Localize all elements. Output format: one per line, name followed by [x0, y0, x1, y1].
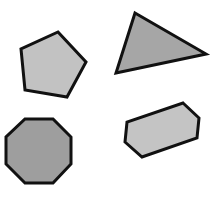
shapes-canvas — [0, 0, 218, 207]
pentagon-shape — [21, 32, 86, 97]
octagon-shape — [6, 119, 71, 183]
triangle-shape — [116, 13, 206, 73]
hexagon-shape — [125, 103, 199, 157]
